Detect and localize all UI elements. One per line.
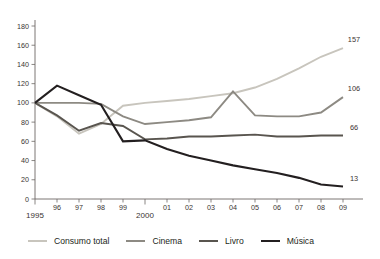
- end-value-label-música: 13: [350, 174, 358, 183]
- chart-legend: Consumo totalCinemaLivroMúsica: [0, 228, 380, 254]
- legend-item-consumo-total[interactable]: Consumo total: [28, 236, 109, 246]
- y-tick-label: 60: [21, 137, 29, 146]
- end-value-label-cinema: 106: [348, 84, 360, 93]
- x-tick-label: 06: [273, 203, 281, 212]
- y-tick-label: 140: [17, 60, 29, 69]
- x-tick-label: 03: [207, 203, 215, 212]
- x-tick-label: 02: [185, 203, 193, 212]
- legend-item-label: Consumo total: [54, 236, 109, 246]
- y-tick-label: 120: [17, 79, 29, 88]
- x-tick-label: 09: [339, 203, 347, 212]
- legend-item-label: Música: [287, 236, 314, 246]
- legend-item-label: Cinema: [152, 236, 182, 246]
- series-line-livro: [35, 103, 343, 140]
- y-tick-label: 180: [17, 22, 29, 31]
- x-tick-label: 05: [251, 203, 259, 212]
- x-tick-label: 1995: [26, 211, 44, 220]
- chart-plot-area: 0204060801001201401601801995969798992000…: [0, 0, 380, 259]
- y-tick-label: 80: [21, 118, 29, 127]
- legend-swatch-icon: [199, 240, 218, 242]
- y-tick-label: 0: [25, 195, 29, 204]
- x-tick-label: 08: [317, 203, 325, 212]
- legend-item-música[interactable]: Música: [261, 236, 314, 246]
- line-chart: 0204060801001201401601801995969798992000…: [0, 0, 380, 259]
- legend-item-label: Livro: [225, 236, 244, 246]
- y-tick-label: 160: [17, 41, 29, 50]
- legend-swatch-icon: [126, 240, 145, 242]
- end-value-label-livro: 66: [350, 123, 358, 132]
- x-tick-label: 04: [229, 203, 237, 212]
- x-tick-label: 97: [75, 203, 83, 212]
- end-value-label-consumo-total: 157: [348, 35, 360, 44]
- y-tick-label: 20: [21, 175, 29, 184]
- y-tick-label: 100: [17, 98, 29, 107]
- legend-swatch-icon: [261, 240, 280, 242]
- legend-item-livro[interactable]: Livro: [199, 236, 244, 246]
- x-tick-label: 2000: [136, 211, 154, 220]
- x-tick-label: 99: [119, 203, 127, 212]
- y-tick-label: 40: [21, 156, 29, 165]
- x-tick-label: 96: [53, 203, 61, 212]
- x-tick-label: 98: [97, 203, 105, 212]
- legend-item-cinema[interactable]: Cinema: [126, 236, 182, 246]
- x-tick-label: 07: [295, 203, 303, 212]
- legend-swatch-icon: [28, 240, 47, 242]
- x-tick-label: 01: [163, 203, 171, 212]
